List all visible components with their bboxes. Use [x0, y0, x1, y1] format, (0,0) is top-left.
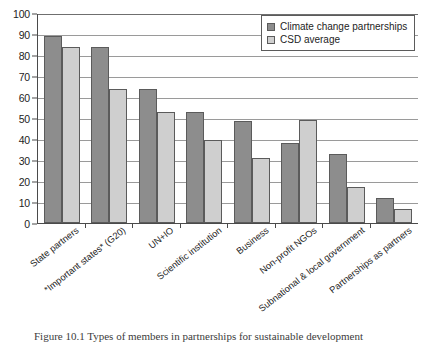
y-axis-tick-label: 90: [19, 30, 30, 41]
bar-csd-average: [157, 112, 175, 223]
bar-chart-figure: 0102030405060708090100 State partners*Im…: [0, 0, 428, 343]
x-axis-category-label: Business: [236, 226, 271, 257]
bar-csd-average: [62, 47, 80, 223]
bar-climate-change-partnerships: [91, 47, 109, 223]
bar-climate-change-partnerships: [139, 89, 157, 223]
y-axis-tick-label: 50: [19, 114, 30, 125]
bar-csd-average: [109, 89, 127, 223]
y-axis-tick-label: 40: [19, 135, 30, 146]
bar-group: [181, 14, 229, 223]
bar-climate-change-partnerships: [376, 198, 394, 223]
legend-item: Climate change partnerships: [267, 20, 407, 33]
y-axis-tick-label: 10: [19, 198, 30, 209]
bar-climate-change-partnerships: [186, 112, 204, 223]
legend-label-csd-average: CSD average: [280, 35, 340, 45]
x-axis-category-label: UN+IO: [147, 226, 175, 251]
bar-group: [38, 14, 86, 223]
bar-csd-average: [299, 120, 317, 223]
x-axis-category-label: *Important states* (G20): [43, 226, 128, 295]
bar-group: [86, 14, 134, 223]
bar-climate-change-partnerships: [44, 36, 62, 223]
legend-swatch-climate-change-partnerships: [267, 23, 275, 31]
figure-caption: Figure 10.1 Types of members in partners…: [34, 330, 424, 343]
y-axis-tick-label: 100: [13, 9, 30, 20]
bar-climate-change-partnerships: [329, 154, 347, 223]
chart-legend: Climate change partnerships CSD average: [261, 15, 415, 51]
bar-climate-change-partnerships: [234, 121, 252, 223]
legend-item: CSD average: [267, 33, 407, 46]
bar-csd-average: [347, 187, 365, 223]
bar-csd-average: [204, 140, 222, 223]
x-axis-category-label: Partnerships as partners: [328, 226, 414, 296]
y-axis-tick-label: 20: [19, 177, 30, 188]
bar-csd-average: [394, 209, 412, 223]
legend-label-climate-change-partnerships: Climate change partnerships: [280, 22, 407, 32]
bar-csd-average: [252, 158, 270, 223]
y-axis-tick-label: 70: [19, 72, 30, 83]
y-axis: 0102030405060708090100: [0, 0, 37, 224]
y-axis-tick-label: 30: [19, 156, 30, 167]
y-axis-tick-label: 60: [19, 93, 30, 104]
bar-climate-change-partnerships: [281, 143, 299, 223]
bar-group: [133, 14, 181, 223]
x-axis-category-labels: State partners*Important states* (G20)UN…: [37, 226, 418, 326]
y-axis-tick-label: 0: [24, 219, 30, 230]
y-axis-tick-label: 80: [19, 51, 30, 62]
legend-swatch-csd-average: [267, 36, 275, 44]
